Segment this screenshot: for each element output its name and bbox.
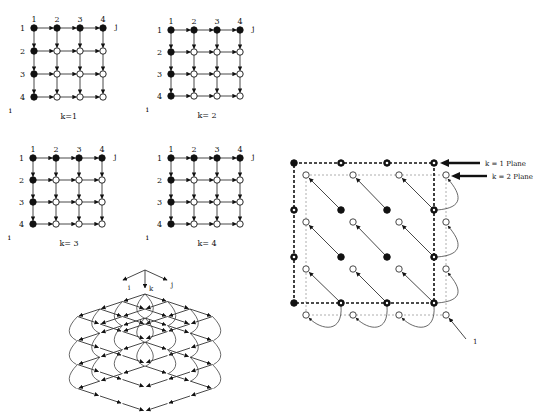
row-label: 2 <box>19 176 24 185</box>
column-label: 2 <box>54 145 59 154</box>
i-dependence-arrow-icon <box>169 348 190 355</box>
row-label: 1 <box>19 154 24 163</box>
i-dependence-arrow-icon <box>191 341 212 348</box>
axis-j-label: j <box>113 152 116 161</box>
open-node-icon <box>76 177 82 183</box>
j-dependence-arrow-icon <box>190 381 211 388</box>
k2-open-node-icon <box>396 219 402 225</box>
i-dependence-arrow-icon <box>169 396 190 403</box>
row-label: 1 <box>157 26 162 35</box>
row-label: 3 <box>157 70 162 79</box>
axis-i-label: i <box>9 106 12 115</box>
j-dependence-arrow-icon <box>123 332 144 339</box>
diagonal-dependence-arrow-icon <box>309 225 341 257</box>
i-dependence-arrow-icon <box>101 317 122 324</box>
j-dependence-arrow-icon <box>123 356 144 363</box>
k1-filled-node-icon <box>291 160 298 167</box>
filled-node-icon <box>31 94 37 100</box>
open-node-icon <box>54 94 60 100</box>
open-node-icon <box>191 93 197 99</box>
i-dependence-arrow-icon <box>169 309 190 316</box>
k2-open-node-icon <box>443 312 449 318</box>
k-dependence-arc <box>114 302 122 326</box>
grid-caption: k= 3 <box>60 239 79 248</box>
column-label: 1 <box>169 17 174 26</box>
open-node-icon <box>53 221 59 227</box>
grid-k2: 12341234jik= 2 <box>146 17 254 120</box>
k2-plane-arrowhead-icon <box>451 172 460 180</box>
row-label: 2 <box>157 176 162 185</box>
filled-node-icon <box>30 221 36 227</box>
open-node-icon <box>214 199 220 205</box>
i-dependence-arrow-icon <box>169 324 190 331</box>
open-node-icon <box>237 221 243 227</box>
k2-open-node-icon <box>303 266 309 272</box>
k-dependence-arc <box>213 365 221 389</box>
filled-node-icon <box>30 155 36 161</box>
open-node-icon <box>237 93 243 99</box>
j-dependence-arrow-icon <box>78 365 99 372</box>
filled-node-icon <box>31 71 37 77</box>
open-node-icon <box>214 177 220 183</box>
node-center <box>293 209 296 212</box>
diagonal-dependence-arrow-icon <box>309 178 341 210</box>
open-node-icon <box>191 199 197 205</box>
row-label: 1 <box>157 154 162 163</box>
k-dependence-arc <box>69 317 77 341</box>
i-dependence-arrow-icon <box>146 380 167 387</box>
column-label: 4 <box>238 145 243 154</box>
k2-open-node-icon <box>396 266 402 272</box>
axis-j-label: j <box>170 281 173 289</box>
filled-node-icon <box>31 48 37 54</box>
k-dependence-arc <box>213 341 221 365</box>
axis-i-label: i <box>8 233 11 242</box>
open-node-icon <box>54 48 60 54</box>
k-dependence-arc <box>190 357 198 381</box>
column-label: 3 <box>77 145 82 154</box>
k-dependence-arc <box>92 333 100 357</box>
j-dependence-arrow-icon <box>145 324 166 331</box>
i-dependence-arrow-icon <box>101 374 122 381</box>
open-node-icon <box>191 49 197 55</box>
filled-node-icon <box>191 27 197 33</box>
diagonal-dependence-arrow-icon <box>356 178 387 210</box>
node-center <box>433 256 435 258</box>
open-node-icon <box>237 49 243 55</box>
filled-node-icon <box>168 199 174 205</box>
filled-node-icon <box>54 25 60 31</box>
filled-node-icon <box>168 49 174 55</box>
open-node-icon <box>77 71 83 77</box>
k1-filled-node-icon <box>338 207 345 214</box>
k-dependence-arc <box>69 341 77 365</box>
open-node-icon <box>214 71 220 77</box>
filled-node-icon <box>168 27 174 33</box>
j-dependence-arrow-icon <box>100 309 121 316</box>
i-dependence-arrow-icon <box>146 332 167 339</box>
k-dependence-arc <box>92 357 100 381</box>
filled-node-icon <box>30 199 36 205</box>
open-node-icon <box>99 177 105 183</box>
node-center <box>386 162 389 165</box>
j-dependence-arrow-icon <box>145 366 166 373</box>
filled-node-icon <box>168 155 174 161</box>
column-label: 3 <box>215 145 220 154</box>
row-label: 4 <box>157 220 162 229</box>
k2-open-node-icon <box>396 172 402 178</box>
row-label: 4 <box>20 93 25 102</box>
wrap-arc-bottom <box>402 306 434 327</box>
open-node-icon <box>53 177 59 183</box>
axis-i-label: i <box>128 284 131 292</box>
j-dependence-arrow-icon <box>78 317 99 324</box>
k-dependence-arc <box>145 342 153 366</box>
plane-projection-diagram: k = 1 Planek = 2 Plane1 <box>291 159 533 346</box>
k2-open-node-icon <box>303 312 309 318</box>
row-label: 4 <box>19 220 24 229</box>
open-node-icon <box>191 71 197 77</box>
k-dependence-arc <box>92 309 100 333</box>
axis-i-arrow-icon <box>123 270 145 280</box>
k-dependence-arc <box>145 294 153 318</box>
isometric-3d-lattice: ikj <box>69 270 221 411</box>
open-node-icon <box>77 94 83 100</box>
open-node-icon <box>214 49 220 55</box>
i-dependence-arrow-icon <box>191 317 212 324</box>
